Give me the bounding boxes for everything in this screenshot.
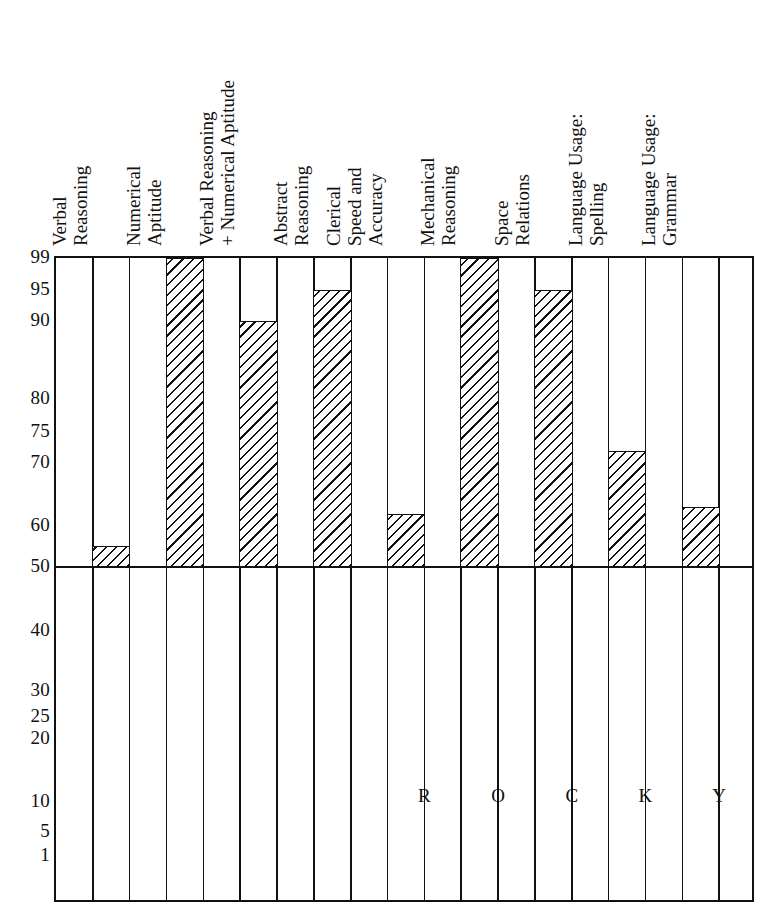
y-tick-label-30: 30 [4,680,50,699]
y-tick-label-95: 95 [4,279,50,298]
column-header-line: Grammar [659,114,680,246]
column-header-line: Language Usage: [565,114,586,246]
bar-numerical-aptitude[interactable] [166,258,204,567]
y-tick-label-80: 80 [4,388,50,407]
column-header-wrap: NumericalAptitude [165,0,187,246]
y-tick-label-20: 20 [4,728,50,747]
bar-language-usage-grammar[interactable] [682,507,720,566]
column-header-wrap: Verbal Reasoning+ Numerical Aptitude [238,0,260,246]
column-header-line: Clerical [323,167,344,246]
bar-space-relations[interactable] [534,290,572,566]
column-header-space-relations: SpaceRelations [491,174,533,246]
column-header-line: Reasoning [438,157,459,246]
bar-verbal-reasoning-numerical-aptitude[interactable] [239,321,277,567]
y-tick-label-70: 70 [4,452,50,471]
annotation-letter-y: Y [707,786,731,805]
y-tick-label-50: 50 [4,556,50,575]
column-header-line: Space [491,174,512,246]
y-tick-label-99: 99 [4,247,50,266]
annotation-letter-c: C [560,786,584,805]
column-header-line: Aptitude [144,166,165,246]
column-header-line: + Numerical Aptitude [217,80,238,246]
column-separator-line [608,258,610,900]
column-header-wrap: SpaceRelations [533,0,555,246]
percentile-profile-chart: VerbalReasoningNumericalAptitudeVerbal R… [0,0,776,924]
column-header-language-usage-grammar: Language Usage:Grammar [638,114,680,246]
column-separator-line [387,258,389,900]
bar-abstract-reasoning[interactable] [313,290,351,566]
y-tick-label-25: 25 [4,706,50,725]
column-header-line: Reasoning [291,166,312,246]
column-header-line: Numerical [123,166,144,246]
bar-language-usage-spelling[interactable] [608,451,646,567]
column-header-line: Language Usage: [638,114,659,246]
column-header-line: Abstract [270,166,291,246]
column-header-numerical-aptitude: NumericalAptitude [123,166,165,246]
y-tick-label-75: 75 [4,421,50,440]
column-header-abstract-reasoning: AbstractReasoning [270,166,312,246]
annotation-letter-k: K [633,786,657,805]
y-tick-label-40: 40 [4,620,50,639]
column-header-wrap: VerbalReasoning [91,0,113,246]
plot-area: ROCKY [54,256,754,902]
column-separator-line [92,258,94,900]
column-header-wrap: ClericalSpeed andAccuracy [386,0,408,246]
annotation-letter-o: O [486,786,510,805]
column-header-language-usage-spelling: Language Usage:Spelling [565,114,607,246]
column-separator-line [682,258,684,900]
column-header-wrap: MechanicalReasoning [459,0,481,246]
column-header-line: Verbal [49,166,70,246]
bar-verbal-reasoning[interactable] [92,546,130,566]
column-header-verbal-reasoning: VerbalReasoning [49,166,91,246]
column-header-wrap: Language Usage:Spelling [607,0,629,246]
column-header-line: Relations [512,174,533,246]
column-header-mechanical-reasoning: MechanicalReasoning [417,157,459,246]
column-header-clerical-speed-and-accuracy: ClericalSpeed andAccuracy [323,167,386,246]
column-header-line: Accuracy [365,167,386,246]
bar-clerical-speed-and-accuracy[interactable] [387,514,425,567]
y-axis-labels: 9995908075706050403025201051 [0,256,50,902]
y-tick-label-5: 5 [4,821,50,840]
column-header-line: Mechanical [417,157,438,246]
y-tick-label-60: 60 [4,515,50,534]
column-header-band: VerbalReasoningNumericalAptitudeVerbal R… [54,0,754,250]
annotation-letter-r: R [412,786,436,805]
column-header-wrap: Language Usage:Grammar [680,0,702,246]
y-tick-label-10: 10 [4,791,50,810]
column-header-line: Reasoning [70,166,91,246]
y-tick-label-90: 90 [4,310,50,329]
column-header-line: Speed and [344,167,365,246]
column-header-line: Verbal Reasoning [196,80,217,246]
column-separator-line [129,258,131,900]
y-tick-label-1: 1 [4,845,50,864]
column-header-verbal-reasoning-numerical-aptitude: Verbal Reasoning+ Numerical Aptitude [196,80,238,246]
bar-mechanical-reasoning[interactable] [460,258,498,567]
column-header-line: Spelling [586,114,607,246]
